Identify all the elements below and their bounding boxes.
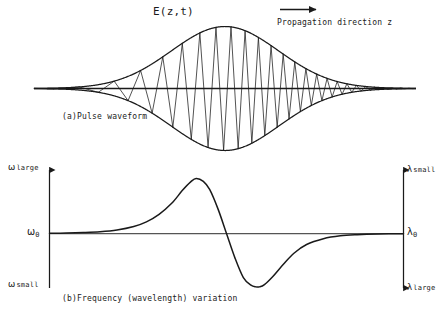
omega-symbol: ω (8, 162, 15, 172)
omega-large-qualifier: large (16, 163, 38, 172)
lambda-symbol: λ (407, 164, 412, 174)
omega-zero-subscript: 0 (35, 230, 39, 239)
omega-small-qualifier: small (16, 280, 38, 289)
figure-drawing (0, 0, 438, 320)
caption-frequency-variation: (b)Frequency (wavelength) variation (62, 295, 238, 303)
frequency-variation-plot (50, 178, 404, 287)
lambda-symbol: λ (407, 282, 412, 292)
axis-label-lambda-large: λlarge (407, 283, 435, 292)
axis-label-omega-large: ωlarge (8, 163, 39, 172)
figure-container: E(z,t) Propagation direction z (a)Pulse … (0, 0, 438, 320)
frequency-variation-curve (50, 178, 404, 287)
axis-label-lambda-zero: λ0 (407, 227, 417, 238)
lambda-small-qualifier: small (413, 165, 435, 174)
pulse-envelope-upper (34, 27, 416, 89)
page-title: E(z,t) (153, 6, 194, 17)
pulse-waveform-plot (34, 27, 416, 151)
lambda-zero-subscript: 0 (413, 230, 417, 239)
caption-pulse-waveform: (a)Pulse waveform (62, 113, 147, 121)
axis-label-omega-small: ωsmall (8, 280, 39, 289)
axis-label-lambda-small: λsmall (407, 165, 435, 174)
axis-label-omega-zero: ω0 (27, 227, 40, 238)
omega-symbol: ω (8, 279, 15, 289)
lambda-large-qualifier: large (413, 283, 435, 292)
propagation-direction-label: Propagation direction z (277, 19, 392, 27)
frequency-plot-axes (50, 170, 404, 288)
